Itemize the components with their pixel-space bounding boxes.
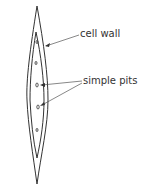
- inner-cell-wall: [30, 32, 44, 158]
- simple-pits: [35, 40, 39, 131]
- fibre-cell-diagram: [0, 0, 147, 189]
- label-cell-wall: cell wall: [80, 29, 120, 39]
- arrow-heads: [40, 43, 50, 106]
- label-simple-pits: simple pits: [83, 76, 137, 86]
